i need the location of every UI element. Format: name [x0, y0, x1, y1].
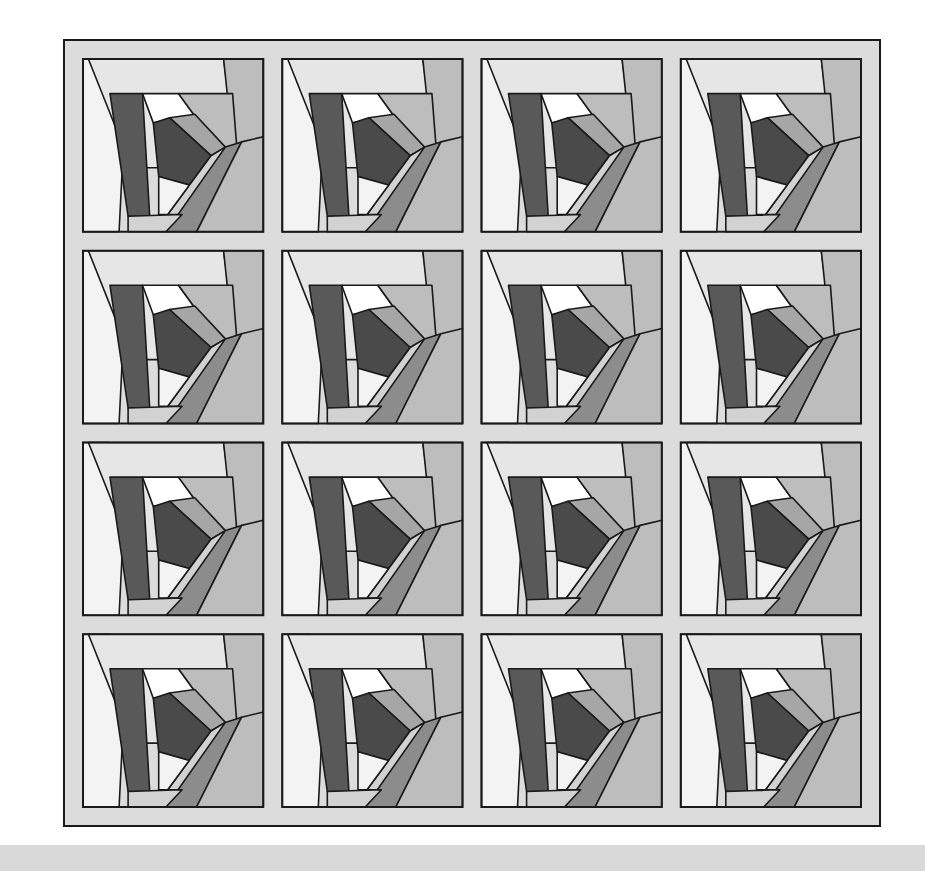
quilt-block — [681, 251, 861, 424]
quilt-block — [282, 443, 462, 616]
quilt-block — [282, 634, 462, 807]
quilt-block — [83, 443, 263, 616]
quilt-block — [282, 59, 462, 232]
quilt-block — [681, 634, 861, 807]
quilt-block — [83, 634, 263, 807]
quilt-block — [681, 443, 861, 616]
quilt-block — [83, 59, 263, 232]
quilt-block — [482, 634, 662, 807]
quilt-block — [482, 59, 662, 232]
quilt-canvas — [0, 0, 925, 871]
quilt-block — [681, 59, 861, 232]
quilt-block — [282, 251, 462, 424]
floor-strip — [0, 845, 925, 871]
quilt-block — [482, 443, 662, 616]
quilt-block — [482, 251, 662, 424]
quilt-block — [83, 251, 263, 424]
